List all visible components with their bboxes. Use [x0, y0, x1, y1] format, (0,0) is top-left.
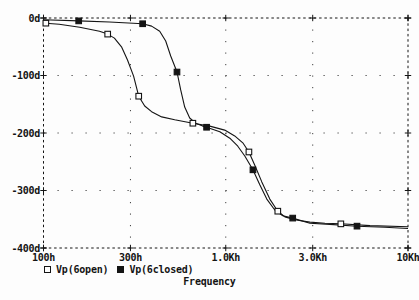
filled-square-marker — [76, 18, 82, 24]
open-square-marker-icon — [44, 266, 51, 273]
tick-mark — [405, 187, 411, 193]
legend-item-vp6open: Vp(6open) — [44, 264, 108, 275]
open-square-marker — [338, 221, 344, 227]
open-square-marker — [43, 20, 49, 26]
open-square-marker — [105, 31, 111, 37]
x-axis-title: Frequency — [0, 276, 419, 287]
open-square-marker — [190, 120, 196, 126]
y-tick-label: 0d — [29, 13, 41, 24]
x-axis-title-text: Frequency — [183, 276, 235, 287]
tick-mark — [127, 245, 133, 251]
legend-label-vp6open: Vp(6open) — [56, 264, 108, 275]
tick-mark — [40, 245, 46, 251]
y-tick-label: -100d — [11, 70, 40, 81]
open-square-marker — [136, 93, 142, 99]
filled-square-marker — [290, 215, 296, 221]
probe-phase-plot-window: 0d-100d-200d-300d-400d100h300h1.0Kh3.0Kh… — [0, 0, 419, 300]
filled-square-marker — [204, 124, 210, 130]
filled-square-marker — [354, 223, 360, 229]
tick-mark — [40, 130, 46, 136]
legend-item-vp6closed: Vp(6closed) — [117, 264, 193, 275]
x-tick-label: 1.0Kh — [211, 252, 240, 263]
tick-mark — [127, 15, 133, 21]
tick-mark — [310, 15, 316, 21]
x-tick-label: 100h — [32, 252, 55, 263]
open-square-marker — [275, 208, 281, 214]
tick-mark — [405, 15, 411, 21]
chart-canvas: 0d-100d-200d-300d-400d100h300h1.0Kh3.0Kh… — [0, 0, 419, 300]
legend: Vp(6open) Vp(6closed) — [44, 264, 193, 275]
y-tick-label: -300d — [11, 185, 40, 196]
filled-square-marker — [140, 21, 146, 27]
tick-mark — [40, 187, 46, 193]
tick-mark — [40, 72, 46, 78]
x-tick-label: 300h — [119, 252, 142, 263]
x-tick-label: 10Kh — [397, 252, 419, 263]
tick-mark — [405, 245, 411, 251]
series-path-vp6closed — [44, 20, 409, 229]
tick-mark — [223, 15, 229, 21]
tick-mark — [310, 245, 316, 251]
filled-square-marker — [250, 167, 256, 173]
tick-mark — [405, 130, 411, 136]
filled-square-marker-icon — [117, 266, 124, 273]
tick-mark — [223, 245, 229, 251]
open-square-marker — [246, 149, 252, 155]
legend-label-vp6closed: Vp(6closed) — [129, 264, 193, 275]
y-tick-label: -200d — [11, 128, 40, 139]
x-tick-label: 3.0Kh — [298, 252, 327, 263]
tick-mark — [405, 72, 411, 78]
filled-square-marker — [174, 69, 180, 75]
